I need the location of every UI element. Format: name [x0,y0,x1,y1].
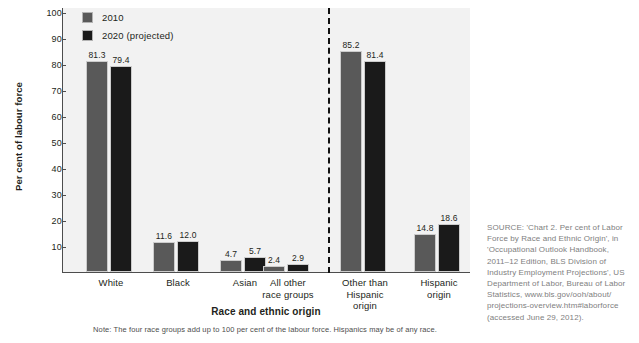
x-category-label-hispanic: Hispanic origin [391,277,487,300]
source-line-2: Force by Race and Ethnic Origin', in [487,233,635,244]
source-line-4: 2011–12 Edition, BLS Division of [487,256,635,267]
bar-value-black-2020: 12.0 [168,231,208,240]
bar-hispanic-2010[interactable] [414,234,436,272]
bar-chart-figure: Per cent of labour force 100 90 80 70 60… [0,0,639,343]
source-line-6: Department of Labor, Bureau of Labor [487,278,635,289]
bar-value-all-other-race-2020: 2.9 [278,254,318,263]
source-line-1: SOURCE: 'Chart 2. Per cent of Labor [487,222,635,233]
x-axis-title: Race and ethnic origin [62,306,470,317]
source-line-3: 'Occupational Outlook Handbook, [487,244,635,255]
x-category-label-hispanic-line1: Hispanic [391,277,487,289]
bar-asian-2010[interactable] [220,260,242,272]
bar-black-2010[interactable] [153,242,175,272]
bar-white-2010[interactable] [86,61,108,272]
source-citation: SOURCE: 'Chart 2. Per cent of Labor Forc… [487,222,635,323]
source-line-7: Statistics, www.bls.gov/ooh/about/ [487,289,635,300]
bar-value-other-than-hispanic-2010: 85.2 [331,41,371,50]
group-divider-dashed-line [328,8,330,273]
source-line-5: Industry Employment Projections', US [487,267,635,278]
source-line-9: (accessed June 29, 2012). [487,312,635,323]
bar-white-2020[interactable] [110,66,132,272]
bar-value-other-than-hispanic-2020: 81.4 [355,51,395,60]
bar-all-other-race-2020[interactable] [287,264,309,272]
bar-black-2020[interactable] [177,241,199,272]
x-category-label-hispanic-line2: origin [391,289,487,301]
bar-other-than-hispanic-2020[interactable] [364,61,386,272]
bar-value-hispanic-2010: 14.8 [405,224,445,233]
bar-other-than-hispanic-2010[interactable] [340,51,362,272]
bar-value-hispanic-2020: 18.6 [429,214,469,223]
bar-value-white-2020: 79.4 [101,56,141,65]
bar-all-other-race-2010[interactable] [263,266,285,272]
source-line-8: projections-overview.htm#laborforce [487,300,635,311]
chart-footnote: Note: The four race groups add up to 100… [40,325,490,334]
